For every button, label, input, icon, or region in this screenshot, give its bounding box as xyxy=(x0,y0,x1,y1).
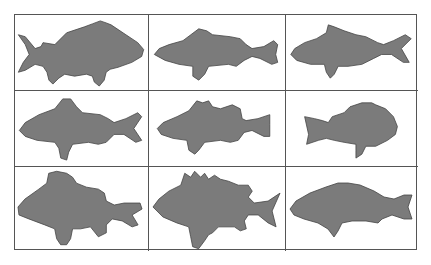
cell-r3-c1 xyxy=(15,167,149,251)
cell-r2-c1 xyxy=(15,91,149,167)
fish-silhouette-icon xyxy=(149,167,285,251)
fish-silhouette-icon xyxy=(149,15,285,90)
fish-silhouette-icon xyxy=(15,167,148,251)
cell-r2-c2 xyxy=(149,91,286,167)
fish-silhouette-icon xyxy=(286,167,418,251)
cell-r1-c3 xyxy=(286,15,418,91)
fish-silhouette-icon xyxy=(286,15,418,90)
fish-silhouette-icon xyxy=(149,91,285,166)
fish-silhouette-icon xyxy=(15,91,148,166)
fish-silhouette-icon xyxy=(15,15,148,90)
cell-r2-c3 xyxy=(286,91,418,167)
cell-r1-c1 xyxy=(15,15,149,91)
fish-silhouette-grid xyxy=(14,14,417,250)
cell-r1-c2 xyxy=(149,15,286,91)
cell-r3-c2 xyxy=(149,167,286,251)
cell-r3-c3 xyxy=(286,167,418,251)
fish-silhouette-icon xyxy=(286,91,418,166)
